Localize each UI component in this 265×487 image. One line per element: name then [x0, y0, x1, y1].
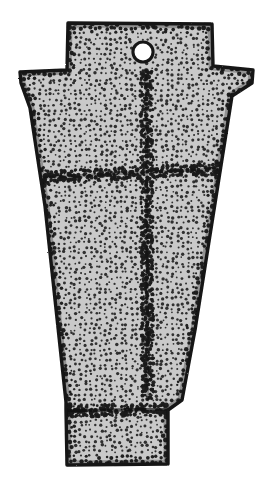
artifact-illustration: [0, 0, 265, 487]
figure-canvas: Archaeological artifact line drawing Tap…: [0, 0, 265, 487]
suspension-hole-group: [133, 42, 152, 61]
suspension-hole: [135, 44, 152, 61]
